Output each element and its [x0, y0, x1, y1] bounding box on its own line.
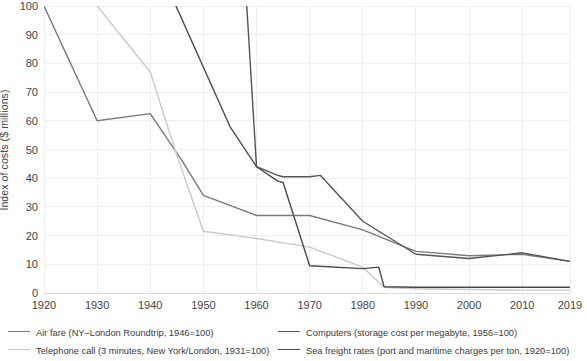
y-tick-label: 50: [8, 145, 38, 156]
y-tick-label: 70: [8, 87, 38, 98]
x-tick-label: 2019: [540, 300, 587, 311]
series-line-computers: [235, 0, 570, 261]
y-tick-label: 80: [8, 58, 38, 69]
x-tick-label: 1960: [227, 300, 287, 311]
y-tick-label: 90: [8, 30, 38, 41]
legend-item[interactable]: Sea freight rates (port and maritime cha…: [278, 344, 569, 357]
x-tick-label: 1930: [67, 300, 127, 311]
x-tick-label: 1990: [386, 300, 446, 311]
legend-item-label: Telephone call (3 minutes, New York/Lond…: [36, 346, 269, 356]
x-tick-label: 2000: [439, 300, 499, 311]
legend-item[interactable]: Telephone call (3 minutes, New York/Lond…: [8, 344, 269, 357]
legend-item-label: Computers (storage cost per megabyte, 19…: [306, 328, 517, 338]
x-tick-label: 1950: [173, 300, 233, 311]
legend-item[interactable]: Computers (storage cost per megabyte, 19…: [278, 326, 517, 339]
series-lines: [44, 0, 570, 290]
y-tick-label: 60: [8, 116, 38, 127]
legend-item[interactable]: Air fare (NY–London Roundtrip, 1946=100): [8, 326, 214, 339]
grid-lines: [44, 6, 570, 293]
legend-item-label: Sea freight rates (port and maritime cha…: [306, 346, 569, 356]
series-line-air-fare: [44, 6, 570, 261]
legend-item-label: Air fare (NY–London Roundtrip, 1946=100): [36, 328, 214, 338]
series-line-sea-freight: [44, 0, 570, 287]
y-tick-label: 10: [8, 259, 38, 270]
legend-swatch-line-icon: [8, 331, 30, 332]
y-tick-label: 20: [8, 231, 38, 242]
y-tick-label: 0: [8, 288, 38, 299]
y-tick-label: 40: [8, 173, 38, 184]
x-tick-label: 1970: [280, 300, 340, 311]
y-tick-label: 100: [8, 1, 38, 12]
legend-swatch-line-icon: [278, 331, 300, 332]
series-line-telephone-call: [97, 6, 570, 290]
y-tick-label: 30: [8, 202, 38, 213]
x-tick-label: 1980: [333, 300, 393, 311]
legend-swatch-line-icon: [278, 349, 300, 350]
x-tick-label: 1940: [120, 300, 180, 311]
x-tick-label: 1920: [14, 300, 74, 311]
legend-swatch-line-icon: [8, 349, 30, 350]
